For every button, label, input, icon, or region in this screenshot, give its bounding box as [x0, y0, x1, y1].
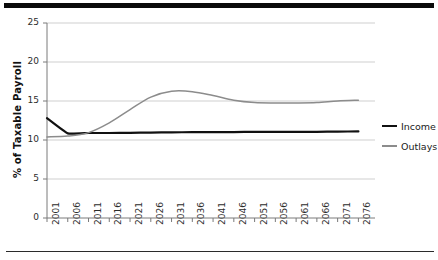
- legend-item-income[interactable]: Income: [382, 116, 438, 136]
- legend-item-label: Income: [401, 121, 436, 132]
- legend-item-label: Outlays: [401, 141, 437, 152]
- legend-line-swatch-icon: [382, 125, 397, 127]
- series-line-outlays: [47, 91, 358, 137]
- chart-figure: % of Taxable Payroll 0510152025 20012006…: [0, 0, 438, 260]
- chart-legend: IncomeOutlays: [382, 116, 438, 156]
- bottom-divider-rule: [6, 251, 434, 252]
- plot-area: [0, 0, 438, 260]
- legend-line-swatch-icon: [382, 145, 397, 147]
- legend-item-outlays[interactable]: Outlays: [382, 136, 438, 156]
